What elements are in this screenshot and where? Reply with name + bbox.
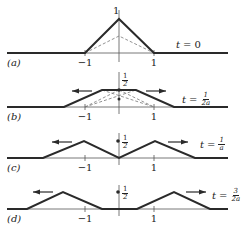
time-label: t=32a [212, 188, 241, 203]
fraction-denominator: 2 [122, 81, 128, 88]
arrow-right-icon [159, 89, 166, 94]
equals-sign: = [207, 140, 215, 150]
time-variable: t [212, 191, 216, 201]
tick-label: −1 [78, 163, 93, 173]
dashed-component-wave [85, 90, 119, 107]
peak-value-label: 12 [122, 73, 128, 88]
crossing-dot [118, 98, 121, 101]
wave-profile [7, 141, 228, 158]
value-dot [116, 139, 120, 143]
time-label: t=1a [200, 137, 225, 152]
value-dot [117, 88, 121, 92]
wave-propagation-figure: (a)−111t=0(b)−1112t=12a(c)−1112t=1a(d)−1… [0, 0, 245, 231]
arrow-left-icon [52, 140, 59, 145]
tick-label: 1 [151, 214, 157, 224]
fraction-denominator: 2 [122, 143, 128, 150]
time-variable: t [200, 140, 204, 150]
panel-label: (a) [7, 58, 21, 68]
panel-label: (d) [7, 214, 21, 224]
time-variable: t [182, 95, 186, 105]
tick-label: 1 [151, 58, 157, 68]
tick-label: −1 [78, 214, 93, 224]
tick-label: 1 [151, 163, 157, 173]
peak-value-label: 12 [122, 135, 128, 150]
arrow-left-icon [33, 190, 40, 195]
time-value: 0 [194, 40, 200, 50]
fraction-denominator: 2a [200, 100, 211, 107]
fraction: 12 [122, 186, 128, 201]
dashed-component-wave [119, 90, 154, 107]
fraction: 12a [200, 92, 211, 107]
tick-label: −1 [78, 112, 93, 122]
equals-sign: = [189, 95, 197, 105]
equals-sign: = [183, 40, 191, 50]
fraction-denominator: 2 [122, 194, 128, 201]
time-label: t=12a [182, 92, 211, 107]
peak-value-label: 1 [113, 6, 119, 16]
peak-value-label: 12 [122, 186, 128, 201]
arrow-right-icon [181, 140, 188, 145]
arrow-left-icon [72, 89, 79, 94]
equals-sign: = [219, 191, 227, 201]
fraction-denominator: a [219, 145, 225, 152]
fraction-denominator: 2a [230, 196, 241, 203]
dashed-component-wave [85, 36, 154, 53]
fraction: 1a [218, 137, 224, 152]
fraction: 12 [122, 73, 128, 88]
fraction: 32a [230, 188, 241, 203]
arrow-right-icon [199, 190, 206, 195]
time-variable: t [176, 40, 180, 50]
tick-label: −1 [78, 58, 93, 68]
value-dot [116, 190, 120, 194]
time-label: t=0 [176, 40, 201, 50]
panel-label: (b) [7, 112, 21, 122]
panel-label: (c) [7, 163, 20, 173]
fraction: 12 [122, 135, 128, 150]
wave-profile [7, 192, 228, 209]
tick-label: 1 [151, 112, 157, 122]
